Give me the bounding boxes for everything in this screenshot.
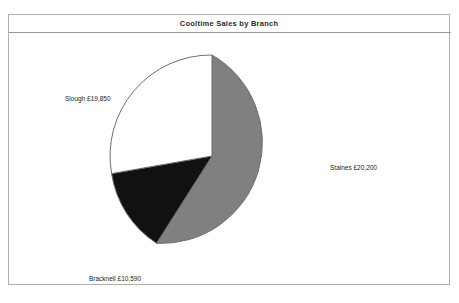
chart-frame: Cooltime Sales by Branch Slough £19,850 … — [8, 14, 450, 285]
pie-label-slough: Slough £19,850 — [65, 95, 111, 103]
pie-slice-slough[interactable] — [110, 55, 212, 174]
pie-chart — [9, 15, 451, 286]
pie-label-bracknell: Bracknell £10,590 — [89, 275, 141, 283]
pie-label-staines: Staines £20,200 — [330, 164, 377, 172]
